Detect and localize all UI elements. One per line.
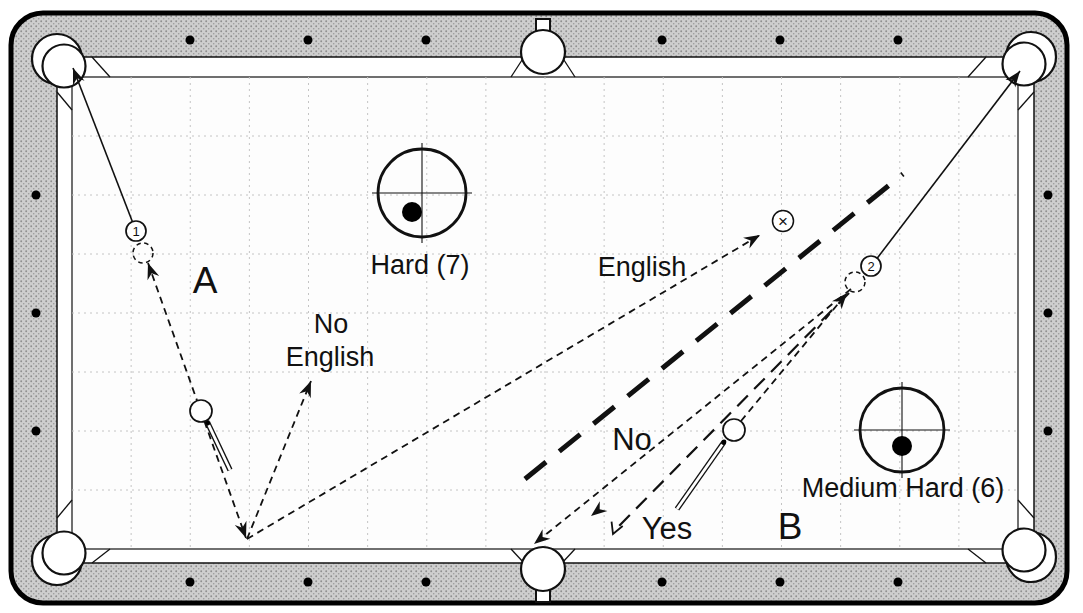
label-a: A <box>193 260 218 301</box>
position-target-x: × <box>773 211 794 232</box>
side-pocket-0 <box>521 30 565 74</box>
cue-ball-a <box>190 400 212 422</box>
object-ball-1-number: 1 <box>132 224 139 239</box>
label-english: English <box>598 252 687 282</box>
label-b: B <box>778 506 803 547</box>
object-ball-2: 2 <box>861 256 881 276</box>
side-pocket-1 <box>521 547 565 591</box>
stroke-hard-caption: Hard (7) <box>370 250 469 280</box>
object-ball-2-number: 2 <box>867 259 874 274</box>
x-symbol: × <box>778 212 788 231</box>
object-ball-1: 1 <box>126 221 146 241</box>
cue-ball-b <box>723 419 745 441</box>
billiards-table-diagram: 12×Hard (7)Medium Hard (6)ABNoEnglishEng… <box>0 0 1083 613</box>
label-no-english-line2: English <box>286 342 375 372</box>
stroke-medium-hard-caption: Medium Hard (6) <box>802 473 1005 503</box>
label-yes: Yes <box>642 511 693 546</box>
pool-shot-diagram-figure: 12×Hard (7)Medium Hard (6)ABNoEnglishEng… <box>0 0 1083 613</box>
label-no-english-line1: No <box>314 309 349 339</box>
label-no: No <box>612 422 652 457</box>
